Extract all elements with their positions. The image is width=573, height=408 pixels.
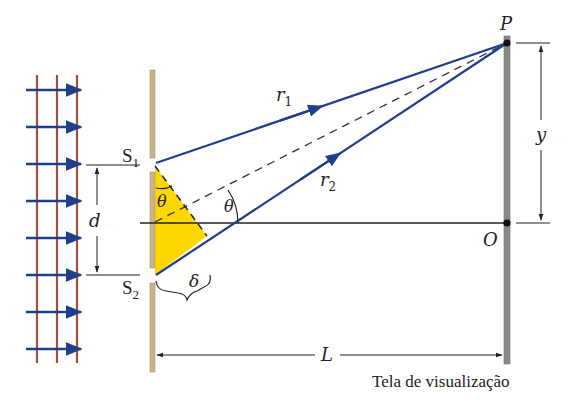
- rays: [156, 43, 507, 275]
- ray-r1: [156, 43, 507, 163]
- label-y: y: [535, 124, 547, 145]
- label-r1: r1: [276, 84, 292, 109]
- label-P: P: [499, 13, 513, 34]
- label-theta-inner: θ: [157, 192, 167, 211]
- delta-brace: [156, 275, 210, 300]
- label-O: O: [483, 229, 498, 250]
- viewing-screen: [504, 36, 510, 364]
- point-P: [503, 39, 510, 46]
- slit-barrier: [150, 70, 155, 372]
- barrier-segment-bottom: [150, 283, 155, 372]
- label-delta: δ: [189, 271, 199, 291]
- label-theta-outer: θ: [224, 197, 234, 216]
- incoming-light-arrows: [26, 90, 81, 349]
- label-S2: S2: [122, 277, 139, 302]
- caption-viewing-screen: Tela de visualização: [372, 372, 510, 391]
- label-S1: S1: [122, 145, 139, 170]
- label-r2: r2: [320, 169, 336, 194]
- center-to-P-dashed-line: [155, 43, 507, 222]
- wavefronts: [37, 75, 77, 363]
- barrier-segment-top: [150, 70, 155, 158]
- double-slit-diagram: S1 S2 d θ θ δ r1 r2 P O y L Tela de visu…: [0, 0, 573, 408]
- label-L: L: [320, 344, 333, 365]
- point-O: [503, 219, 510, 226]
- barrier-segment-middle: [150, 172, 155, 268]
- label-d: d: [89, 210, 101, 231]
